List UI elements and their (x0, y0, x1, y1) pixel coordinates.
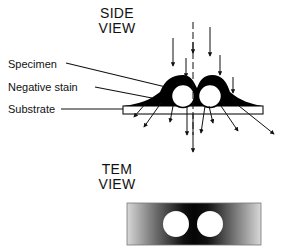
negative-stain-leader-line (95, 87, 152, 98)
specimen-leader-line (66, 63, 170, 88)
specimen-circle-left (172, 85, 195, 108)
specimen-circle-right (199, 85, 222, 108)
tem-view-image (127, 203, 261, 245)
tem-specimen-left (163, 211, 189, 237)
side-view-diagram (0, 0, 281, 247)
tem-specimen-right (197, 211, 223, 237)
